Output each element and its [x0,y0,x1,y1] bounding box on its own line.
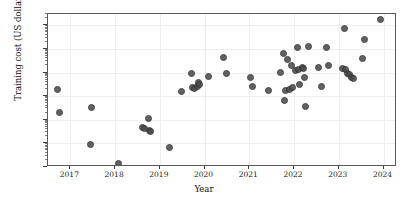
y-axis-tick-mark [43,166,47,167]
data-point [341,25,348,32]
x-axis-tick-label: 2017 [60,170,79,179]
x-axis-tick-label: 2023 [328,170,347,179]
x-axis-tick-label: 2021 [239,170,258,179]
x-axis-tick-mark [159,166,160,169]
data-point [54,86,61,93]
x-axis-tick-mark [293,166,294,169]
gridline-vertical [205,14,206,165]
data-point [294,44,301,51]
data-point [56,109,63,116]
gridline-vertical [70,14,71,165]
data-point [281,97,288,104]
gridline-horizontal [48,96,395,97]
x-axis-tick-mark [248,166,249,169]
data-point [305,43,312,50]
x-axis-label: Year [0,184,408,194]
data-point [359,55,366,62]
data-point [301,74,308,81]
gridline-horizontal [48,143,395,144]
data-point [325,62,332,69]
data-point [361,36,368,43]
data-point [166,144,173,151]
data-point [205,73,212,80]
x-axis-tick-mark [383,166,384,169]
data-point [87,141,94,148]
gridline-vertical [115,14,116,165]
data-point [147,128,154,135]
data-point [302,103,309,110]
data-point [323,44,330,51]
data-point [145,115,152,122]
data-point [249,83,256,90]
x-axis-tick-label: 2022 [284,170,303,179]
data-point [220,54,227,61]
data-point [88,104,95,111]
training-cost-scatter-chart: Training cost (US dollars) 1021031041051… [0,0,408,202]
gridline-vertical [339,14,340,165]
x-axis-tick-mark [338,166,339,169]
data-point [188,70,195,77]
gridline-vertical [384,14,385,165]
data-point [265,87,272,94]
y-axis-label: Training cost (US dollars) [13,0,23,115]
data-point [318,83,325,90]
data-point [300,65,307,72]
x-axis-tick-mark [204,166,205,169]
data-point [315,64,322,71]
x-axis-tick-label: 2019 [149,170,168,179]
x-axis-tick-label: 2020 [194,170,213,179]
data-point [277,69,284,76]
x-axis-tick-label: 2024 [373,170,392,179]
plot-area [47,13,396,166]
data-point [196,81,203,88]
data-point [296,81,303,88]
data-point [247,74,254,81]
data-point [377,16,384,23]
data-point [223,70,230,77]
x-axis-tick-mark [114,166,115,169]
data-point [115,160,122,166]
x-axis-tick-mark [69,166,70,169]
gridline-horizontal [48,120,395,121]
gridline-horizontal [48,73,395,74]
gridline-horizontal [48,49,395,50]
data-point [350,75,357,82]
x-axis-tick-label: 2018 [105,170,124,179]
gridline-vertical [160,14,161,165]
data-point [178,88,185,95]
